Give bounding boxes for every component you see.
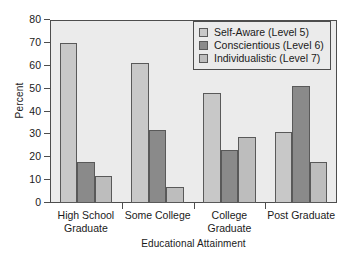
bar-chart: Percent 01020304050607080 High School Gr… — [0, 0, 357, 264]
bar — [221, 150, 239, 203]
legend-item-label: Conscientious (Level 6) — [214, 39, 324, 52]
y-tick-label: 30 — [29, 127, 41, 140]
bar — [77, 162, 95, 203]
x-axis-category-label: Post Graduate — [246, 209, 356, 222]
y-tick-label: 20 — [29, 150, 41, 163]
y-tick-label: 60 — [29, 59, 41, 72]
x-axis-title: Educational Attainment — [50, 238, 337, 249]
legend-swatch-icon — [199, 41, 208, 50]
legend: Self-Aware (Level 5) Conscientious (Leve… — [193, 21, 331, 70]
legend-item: Conscientious (Level 6) — [199, 39, 324, 52]
bar — [203, 93, 221, 203]
bar — [95, 176, 113, 203]
y-tick-label: 80 — [29, 13, 41, 26]
bar — [166, 187, 184, 203]
legend-swatch-icon — [199, 28, 208, 37]
bar — [60, 43, 78, 203]
y-tick-label: 70 — [29, 36, 41, 49]
bar — [149, 130, 167, 203]
y-tick-label: 50 — [29, 82, 41, 95]
bar — [292, 86, 310, 203]
y-tick-label: 0 — [35, 196, 41, 209]
y-tick-label: 10 — [29, 173, 41, 186]
legend-item: Individualistic (Level 7) — [199, 52, 324, 65]
y-tick-label: 40 — [29, 105, 41, 118]
y-axis-title: Percent — [14, 61, 25, 141]
legend-swatch-icon — [199, 54, 208, 63]
legend-item-label: Self-Aware (Level 5) — [214, 26, 309, 39]
bar — [310, 162, 328, 203]
legend-item: Self-Aware (Level 5) — [199, 26, 324, 39]
legend-item-label: Individualistic (Level 7) — [214, 52, 320, 65]
bar — [131, 63, 149, 203]
bar — [238, 137, 256, 203]
bar — [275, 132, 293, 203]
